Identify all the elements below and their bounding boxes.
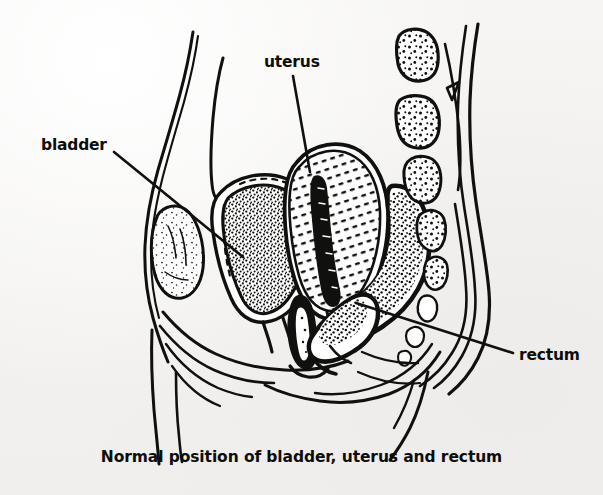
label-uterus: uterus — [264, 55, 320, 71]
thigh-contour — [152, 330, 428, 464]
pelvis-sagittal-drawing — [0, 0, 603, 495]
label-rectum: rectum — [519, 348, 580, 364]
anatomical-figure: bladder uterus rectum Normal position of… — [0, 0, 603, 495]
label-bladder: bladder — [41, 138, 107, 154]
figure-caption: Normal position of bladder, uterus and r… — [0, 448, 603, 466]
